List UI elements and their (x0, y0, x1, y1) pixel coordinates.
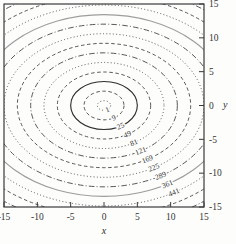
contour-line-529 (0, 0, 236, 216)
y-axis-tick-label: 15 (209, 0, 219, 9)
x-axis-tick-label: 15 (199, 212, 209, 222)
x-axis-tick-label: -5 (67, 212, 75, 222)
x-axis-tick-label: 5 (135, 212, 140, 222)
y-axis-title: y (223, 100, 227, 110)
contour-label-9: 9 (110, 113, 117, 123)
x-axis-tick-label: -10 (31, 212, 44, 222)
y-axis-tick-label: 5 (209, 67, 214, 77)
x-axis-tick-label: 10 (166, 212, 176, 222)
y-axis-tick-label: 0 (209, 101, 214, 111)
y-axis-tick-label: 10 (209, 33, 219, 43)
contour-label-1: 1 (104, 104, 111, 114)
x-axis-title: x (102, 226, 106, 236)
x-axis-tick-label: 0 (102, 212, 107, 222)
contour-line-361 (0, 15, 231, 197)
contour-figure: -15-10-5051015151050-5-10-15192549811211… (0, 0, 236, 244)
y-axis-tick-label: -15 (209, 202, 222, 212)
contour-line-289 (0, 24, 217, 187)
contour-plot: -15-10-5051015151050-5-10-15192549811211… (0, 0, 236, 244)
y-axis-tick-label: -5 (209, 135, 217, 145)
contour-line-625 (0, 0, 236, 225)
y-axis-tick-label: -10 (209, 168, 222, 178)
contour-lines-group (0, 0, 236, 225)
x-axis-tick-label: -15 (0, 212, 11, 222)
